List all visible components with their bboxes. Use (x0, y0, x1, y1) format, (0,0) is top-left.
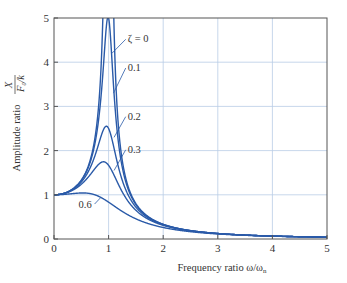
y-tick-label: 3 (44, 100, 50, 112)
plot-frame (54, 18, 327, 239)
x-tick-label: 2 (160, 242, 166, 254)
curve-zeta-0 (54, 0, 104, 195)
x-tick-label: 4 (270, 242, 276, 254)
y-tick-label: 1 (44, 189, 50, 201)
axis-ticks: 012345012345 (44, 12, 331, 254)
annotation-label: 0.3 (128, 144, 141, 155)
grid-lines (54, 18, 327, 239)
y-tick-label: 0 (44, 233, 50, 245)
x-tick-label: 0 (51, 242, 57, 254)
y-axis-label: Amplitude ratio X F0/k (3, 75, 27, 172)
svg-text:Amplitude ratio: Amplitude ratio (11, 105, 22, 172)
svg-text:F0/k: F0/k (15, 75, 27, 93)
x-tick-label: 3 (215, 242, 221, 254)
annotation-label: 0.6 (79, 199, 92, 210)
x-axis-label: Frequency ratio ω/ωn (177, 262, 267, 275)
x-tick-label: 1 (106, 242, 112, 254)
frequency-response-chart: 012345012345 ζ = 00.10.20.30.6 Frequency… (0, 0, 347, 283)
y-tick-label: 2 (44, 145, 50, 157)
x-tick-label: 5 (324, 242, 330, 254)
amplitude-curves (54, 0, 327, 237)
annotation-label: 0.1 (128, 62, 141, 73)
annotation-label: 0.2 (128, 111, 141, 122)
svg-text:X: X (3, 81, 14, 89)
y-tick-label: 4 (44, 56, 50, 68)
curve-annotations: ζ = 00.10.20.30.6 (79, 33, 149, 210)
curve-zeta-0.3 (54, 162, 327, 237)
annotation-label: ζ = 0 (128, 33, 149, 45)
y-tick-label: 5 (44, 12, 50, 24)
